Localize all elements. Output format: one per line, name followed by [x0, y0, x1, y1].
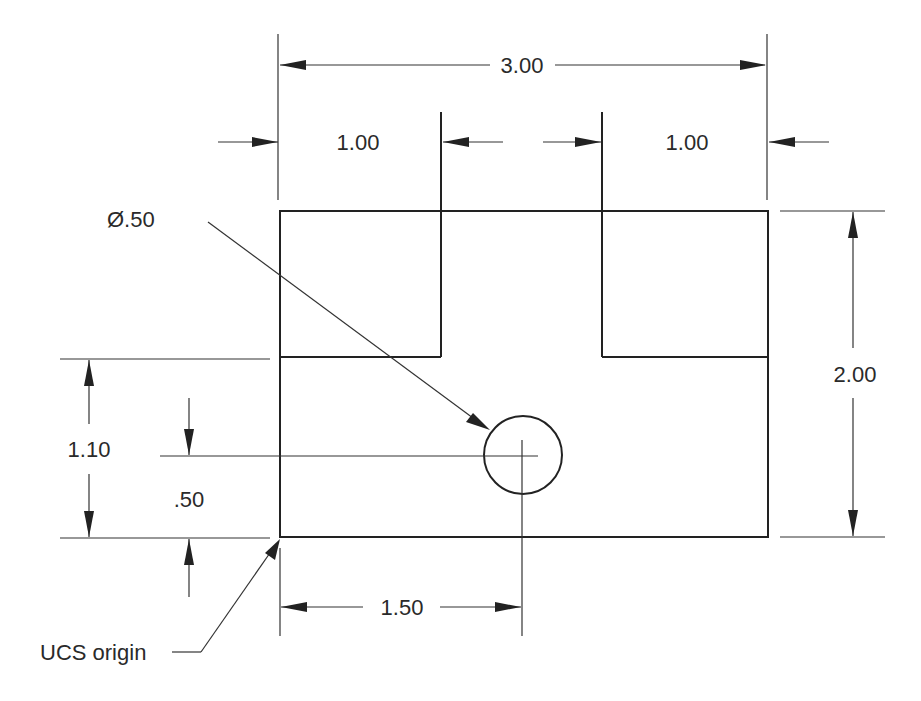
dim-hole-y: .50 [174, 398, 205, 597]
dim-text-3.00: 3.00 [501, 53, 544, 78]
svg-text:2.00: 2.00 [834, 362, 877, 387]
part-outline [280, 112, 768, 537]
dim-right-slot: 1.00 [543, 130, 829, 155]
dim-slot-height: 1.10 [68, 360, 111, 537]
svg-text:1.00: 1.00 [337, 130, 380, 155]
dim-overall-height: 2.00 [834, 212, 877, 536]
dim-hole-x: 1.50 [281, 595, 521, 620]
extension-lines [60, 34, 885, 636]
svg-text:1.00: 1.00 [666, 130, 709, 155]
hole-circle [484, 416, 562, 494]
technical-drawing: 3.00 1.00 1.00 2.00 1.10 .50 [0, 0, 921, 701]
leader-ucs-origin: UCS origin [40, 539, 280, 665]
svg-text:UCS origin: UCS origin [40, 640, 146, 665]
svg-text:.50: .50 [174, 487, 205, 512]
dim-left-slot: 1.00 [218, 130, 503, 155]
dim-overall-width: 3.00 [280, 53, 766, 78]
leader-hole-diameter: Ø.50 [107, 207, 490, 430]
svg-text:1.10: 1.10 [68, 437, 111, 462]
svg-text:Ø.50: Ø.50 [107, 207, 155, 232]
svg-text:1.50: 1.50 [381, 595, 424, 620]
